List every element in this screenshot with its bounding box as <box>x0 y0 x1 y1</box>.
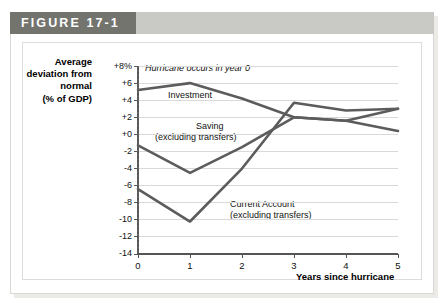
figure-header-band: FIGURE 17-1 <box>10 12 434 34</box>
figure-title: FIGURE 17-1 <box>21 16 120 30</box>
figure-root: FIGURE 17-1 Average deviation from norma… <box>0 0 444 307</box>
chart-card <box>22 42 422 280</box>
